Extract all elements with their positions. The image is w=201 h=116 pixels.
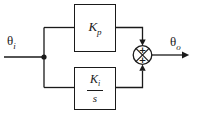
- proportional-block: Kp: [74, 4, 116, 52]
- proportional-gain-subscript: p: [97, 26, 102, 36]
- integral-block: Ki s: [74, 67, 116, 110]
- integral-gain-label: Ki s: [87, 73, 103, 104]
- output-signal-label: θo: [170, 35, 181, 52]
- input-signal-label: θi: [7, 34, 16, 51]
- kp-output-line: [116, 28, 143, 41]
- arrowhead-into-sum-bottom: [139, 64, 145, 70]
- summing-plus-top-sign: +: [137, 46, 148, 55]
- arrowhead-output: [182, 52, 189, 59]
- integral-gain-base: K: [90, 72, 98, 86]
- proportional-gain-base: K: [88, 19, 97, 34]
- fraction-numerator: Ki: [87, 73, 103, 91]
- proportional-gain-label: Kp: [88, 20, 101, 37]
- summing-plus-bottom-sign: +: [137, 56, 148, 65]
- input-signal-subscript: i: [13, 41, 16, 51]
- output-signal-subscript: o: [176, 42, 181, 52]
- branch-node-dot: [41, 54, 46, 59]
- block-diagram-canvas: θi Kp Ki s + + θo: [0, 0, 201, 116]
- ki-output-line: [116, 71, 143, 88]
- fraction-denominator: s: [93, 91, 97, 104]
- integral-gain-subscript: i: [98, 79, 100, 88]
